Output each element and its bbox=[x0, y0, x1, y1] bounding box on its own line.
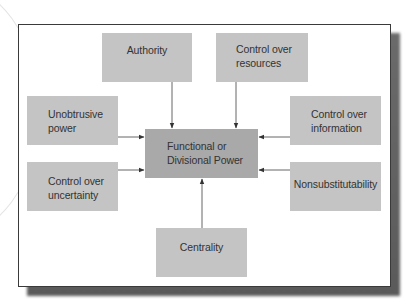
node-label: Control over uncertainty bbox=[48, 174, 104, 202]
node-label: Unobtrusive power bbox=[48, 107, 103, 135]
node-unobtrusive-power: Unobtrusive power bbox=[27, 96, 118, 145]
node-centrality: Centrality bbox=[156, 228, 247, 277]
node-label: Nonsubstitutability bbox=[294, 177, 377, 191]
node-label: Control over resources bbox=[236, 42, 292, 70]
node-control-over-resources: Control over resources bbox=[216, 33, 308, 82]
node-label: Authority bbox=[127, 43, 168, 57]
node-authority: Authority bbox=[102, 33, 192, 82]
node-label: Control over information bbox=[311, 107, 367, 135]
node-control-over-uncertainty: Control over uncertainty bbox=[27, 162, 118, 211]
node-label: Centrality bbox=[180, 240, 223, 254]
node-functional-or-divisional-power: Functional or Divisional Power bbox=[145, 129, 258, 178]
center-label: Functional or Divisional Power bbox=[167, 139, 243, 167]
node-control-over-information: Control over information bbox=[290, 96, 381, 145]
node-nonsubstitutability: Nonsubstitutability bbox=[290, 162, 381, 211]
